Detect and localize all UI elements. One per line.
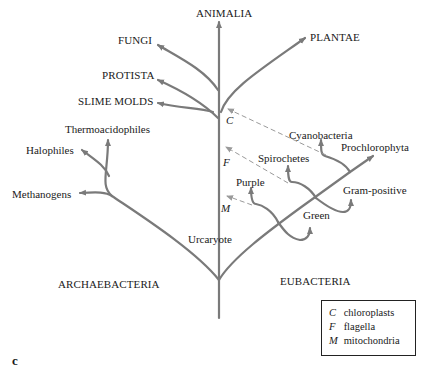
label-animalia: ANIMALIA xyxy=(196,8,252,19)
label-eubacteria: EUBACTERIA xyxy=(280,276,351,287)
label-thermoacidophiles: Thermoacidophiles xyxy=(65,124,150,135)
branch-protista xyxy=(158,80,218,118)
label-gram-positive: Gram-positive xyxy=(343,185,407,196)
legend-item: C chloroplasts xyxy=(329,306,415,320)
label-fungi: FUNGI xyxy=(118,35,152,46)
label-urcaryote: Urcaryote xyxy=(188,234,232,245)
panel-label: c xyxy=(12,353,18,369)
label-protista: PROTISTA xyxy=(102,70,154,81)
label-prochlorophyta: Prochlorophyta xyxy=(341,142,409,153)
marker-m: M xyxy=(221,203,230,214)
branch-archaea xyxy=(105,140,219,280)
marker-c: C xyxy=(226,115,233,126)
branch-spirochetes xyxy=(288,166,316,198)
label-methanogens: Methanogens xyxy=(12,189,71,200)
label-green: Green xyxy=(303,210,330,221)
label-spirochetes: Spirochetes xyxy=(258,153,309,164)
branch-methanogens xyxy=(80,192,112,196)
label-slime-molds: SLIME MOLDS xyxy=(78,96,153,107)
branch-eubacteria xyxy=(219,156,373,280)
marker-f: F xyxy=(223,157,230,168)
branch-plantae xyxy=(221,38,305,112)
legend-item: M mitochondria xyxy=(329,334,415,348)
legend-item: F flagella xyxy=(329,320,415,334)
label-plantae: PLANTAE xyxy=(310,32,360,43)
branch-purple xyxy=(251,188,278,222)
label-cyanobacteria: Cyanobacteria xyxy=(289,130,353,141)
dashed-mitochondria-transfer xyxy=(227,196,252,205)
label-archaebacteria: ARCHAEBACTERIA xyxy=(58,279,160,290)
label-halophiles: Halophiles xyxy=(26,145,74,156)
label-purple: Purple xyxy=(236,177,265,188)
branch-green xyxy=(278,222,310,240)
legend-box: C chloroplasts F flagella M mitochondria xyxy=(321,300,416,356)
